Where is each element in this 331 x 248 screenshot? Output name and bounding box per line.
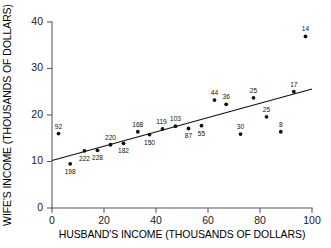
- data-point-label: 222: [79, 155, 90, 162]
- x-tick-label-100: 100: [303, 214, 321, 226]
- data-point: [174, 124, 178, 128]
- y-axis-ticks: [47, 22, 52, 208]
- data-point-label: 55: [198, 130, 206, 137]
- data-point: [304, 35, 308, 39]
- data-point-label: 30: [237, 123, 245, 130]
- y-tick-label-30: 30: [31, 61, 43, 73]
- data-point: [161, 127, 165, 131]
- data-point-label: 228: [92, 154, 103, 161]
- data-point: [57, 132, 61, 136]
- data-point-label: 14: [302, 25, 310, 32]
- data-point-label: 25: [250, 87, 258, 94]
- data-point: [252, 96, 256, 100]
- x-tick-label-0: 0: [49, 214, 55, 226]
- data-point: [96, 148, 100, 152]
- data-point-label: 119: [156, 118, 167, 125]
- data-point: [200, 124, 204, 128]
- data-point-label: 198: [65, 168, 76, 175]
- data-point: [279, 130, 283, 134]
- y-tick-label-10: 10: [31, 154, 43, 166]
- y-tick-label-40: 40: [31, 15, 43, 27]
- x-tick-label-20: 20: [98, 214, 110, 226]
- data-point: [83, 149, 87, 153]
- data-point-label: 168: [132, 121, 143, 128]
- scatter-plot-figure: 010203040 020406080100 92198222228220182…: [0, 0, 331, 248]
- data-point-label: 220: [105, 134, 116, 141]
- x-tick-label-80: 80: [254, 214, 266, 226]
- x-tick-label-40: 40: [150, 214, 162, 226]
- data-point-label: 150: [144, 139, 155, 146]
- data-point: [136, 130, 140, 134]
- y-tick-label-20: 20: [31, 108, 43, 120]
- data-point: [265, 115, 269, 119]
- x-axis-ticks: [52, 208, 312, 213]
- data-point: [187, 127, 191, 131]
- data-point-label: 87: [185, 132, 193, 139]
- data-point: [213, 98, 217, 102]
- y-axis-title: WIFE'S INCOME (THOUSANDS OF DOLLARS): [1, 4, 13, 226]
- data-point: [224, 102, 228, 106]
- data-point: [68, 162, 72, 166]
- data-point: [292, 90, 296, 94]
- data-point: [122, 141, 126, 145]
- data-point: [148, 133, 152, 137]
- data-point: [239, 132, 243, 136]
- data-point-label: 25: [263, 106, 271, 113]
- y-axis-tick-labels: 010203040: [31, 15, 43, 213]
- x-tick-label-60: 60: [202, 214, 214, 226]
- plot-canvas: 010203040 020406080100 92198222228220182…: [0, 0, 331, 248]
- data-point-label: 17: [290, 81, 298, 88]
- regression-line: [52, 89, 312, 161]
- data-point-label: 36: [223, 93, 231, 100]
- data-point-label: 103: [170, 115, 181, 122]
- y-tick-label-0: 0: [37, 201, 43, 213]
- data-point-label: 92: [55, 123, 63, 130]
- data-point-label: 44: [211, 89, 219, 96]
- data-point-label: 182: [118, 147, 129, 154]
- data-point-label: 8: [279, 121, 283, 128]
- data-point: [109, 143, 113, 147]
- x-axis-title: HUSBAND'S INCOME (THOUSANDS OF DOLLARS): [59, 228, 306, 240]
- x-axis-tick-labels: 020406080100: [49, 214, 321, 226]
